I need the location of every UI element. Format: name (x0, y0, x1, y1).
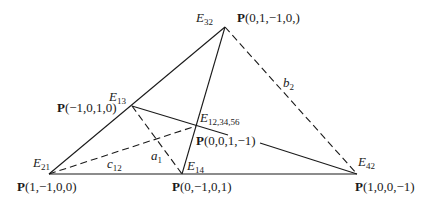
vertex-label-e42: E42 (357, 154, 375, 171)
edge-label-a1: a1 (151, 148, 162, 165)
vertex-label-e32: E32 (195, 10, 213, 27)
point-label-e42: P(1,0,0,−1) (355, 179, 415, 194)
point-label-e21: P(1,−1,0,0) (17, 179, 77, 194)
point-label-e14: P(0,−1,0,1) (172, 179, 232, 194)
point-label-e13: P(−1,0,1,0) (57, 100, 117, 115)
vertex-label-e12-34-56: E12,34,56 (199, 110, 240, 127)
edge-e21-e12-dashed (49, 126, 196, 174)
vertex-label-e14: E14 (186, 158, 204, 175)
diagram: E32 P(0,1,−1,0,) E13 P(−1,0,1,0) E12,34,… (0, 0, 435, 204)
vertex-label-e21: E21 (32, 155, 50, 172)
point-label-e12-34-56: P(0,0,1,−1) (196, 133, 256, 148)
edge-e32-e14 (182, 27, 225, 174)
edge-e32-e42-dashed (225, 27, 357, 174)
edge-label-c12: c12 (107, 156, 122, 173)
point-label-e32: P(0,1,−1,0,) (237, 10, 300, 25)
edge-label-b2: b2 (283, 75, 294, 92)
